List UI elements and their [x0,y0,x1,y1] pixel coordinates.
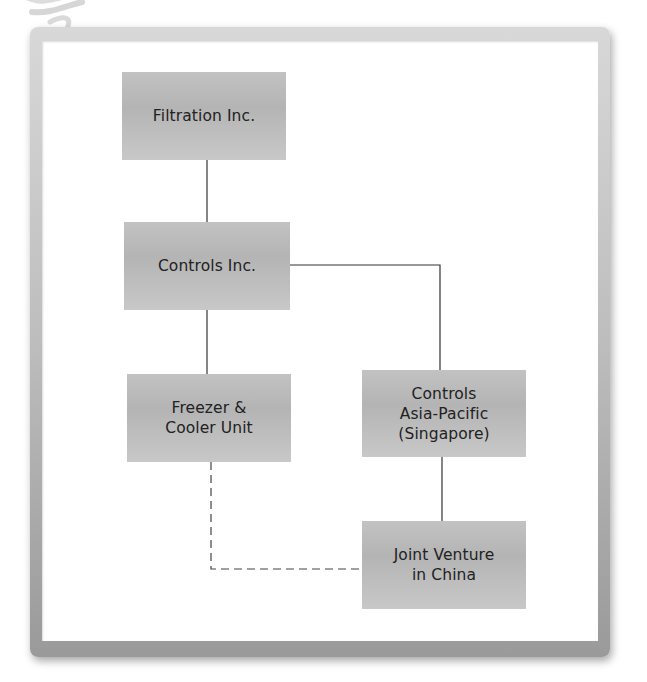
node-controls-asia-pacific: Controls Asia-Pacific (Singapore) [362,370,526,457]
node-freezer-cooler-unit: Freezer & Cooler Unit [127,374,291,462]
node-label: Filtration Inc. [153,106,255,126]
node-filtration-inc: Filtration Inc. [122,72,286,160]
node-label: Freezer & Cooler Unit [165,398,253,438]
node-label: Controls Inc. [158,256,256,276]
node-joint-venture-china: Joint Venture in China [362,521,526,609]
node-controls-inc: Controls Inc. [124,222,290,310]
node-label: Controls Asia-Pacific (Singapore) [398,384,489,444]
node-label: Joint Venture in China [394,545,495,585]
